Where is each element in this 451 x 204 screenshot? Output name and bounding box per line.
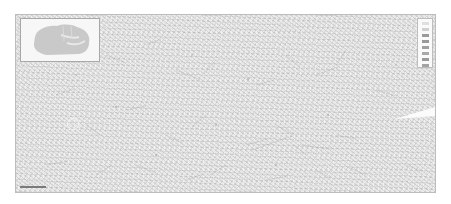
legend-swatch xyxy=(422,22,429,25)
river-inlet xyxy=(395,107,435,121)
legend-swatch xyxy=(422,58,429,61)
legend-swatch xyxy=(422,64,429,67)
legend-row xyxy=(421,33,429,38)
legend-row xyxy=(421,51,429,56)
scale-bar-line xyxy=(20,186,46,188)
legend-swatch xyxy=(422,28,429,31)
scale-bar: ~~~ xyxy=(20,183,46,188)
circular-feature xyxy=(67,118,79,130)
legend-row xyxy=(421,27,429,32)
overview-inset xyxy=(20,18,100,62)
legend-row xyxy=(421,57,429,62)
legend-row xyxy=(421,21,429,26)
map-legend xyxy=(417,18,433,68)
legend-row xyxy=(421,63,429,68)
legend-swatch xyxy=(422,52,429,55)
legend-swatch xyxy=(422,34,429,37)
legend-row xyxy=(421,45,429,50)
legend-swatch xyxy=(422,40,429,43)
legend-row xyxy=(421,39,429,44)
legend-swatch xyxy=(422,46,429,49)
overview-region-shape xyxy=(31,23,93,57)
map-canvas[interactable]: ~~~ xyxy=(15,14,436,193)
